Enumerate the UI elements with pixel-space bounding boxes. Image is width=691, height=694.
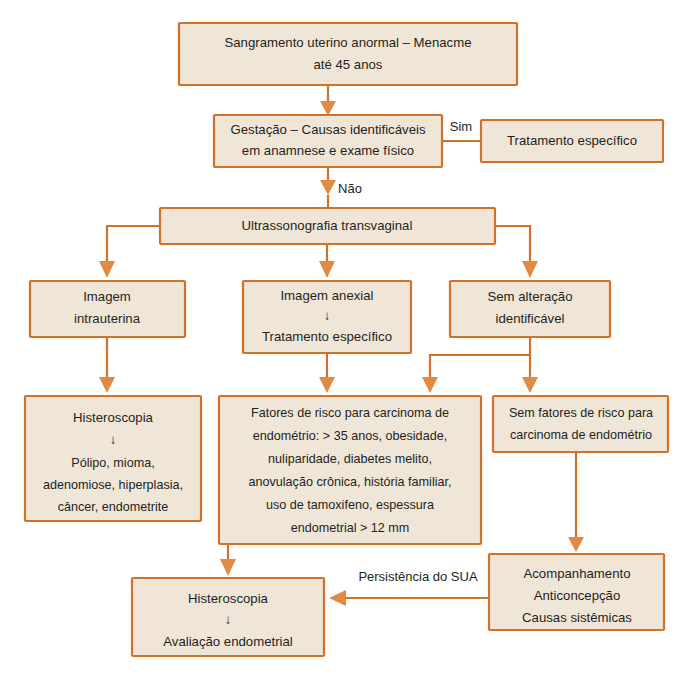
node-tratamento-especifico[interactable]: Tratamento específico	[481, 120, 663, 162]
node-text-line: Tratamento específico	[262, 329, 392, 344]
node-text-line: Fatores de risco para carcinoma de	[251, 406, 449, 420]
edge-arrow-n7-n10	[522, 377, 538, 393]
node-histeroscopia-avaliacao[interactable]: Histeroscopia ↓ Avaliação endometrial	[132, 578, 324, 656]
node-text-arrow-glyph: ↓	[110, 432, 117, 447]
nodes-group: Sangramento uterino anormal – Menacme at…	[25, 23, 668, 656]
node-text-line: Causas sistêmicas	[522, 610, 632, 625]
node-text-line: Sem fatores de risco para	[509, 406, 653, 420]
edge-arrow-n4-n5	[99, 261, 115, 278]
edge-arrow-n4-n6	[319, 261, 335, 278]
node-text-line: Sangramento uterino anormal – Menacme	[224, 35, 471, 50]
node-text-arrow-glyph: ↓	[225, 612, 232, 627]
flowchart-svg: Sangramento uterino anormal – Menacme at…	[0, 0, 691, 694]
node-text-line: em anamnese e exame físico	[242, 143, 414, 158]
node-text-line: até 45 anos	[314, 57, 383, 72]
node-text-arrow-glyph: ↓	[324, 308, 331, 323]
edge-arrow-n1-n2	[320, 101, 336, 116]
node-text-line: Avaliação endometrial	[163, 634, 293, 649]
node-sangramento-uterino[interactable]: Sangramento uterino anormal – Menacme at…	[179, 23, 517, 85]
node-text-line: carcinoma de endométrio	[510, 428, 652, 442]
edge-arrow-n10-n11	[568, 537, 584, 552]
node-text-line: Histeroscopia	[73, 410, 154, 425]
edge-label-sim: Sim	[450, 119, 472, 134]
node-imagem-anexial[interactable]: Imagem anexial ↓ Tratamento específico	[243, 281, 411, 353]
node-text-line: intrauterina	[74, 311, 141, 326]
node-text-line: Sem alteração	[487, 289, 572, 304]
edge-arrow-n2-nao	[320, 180, 336, 195]
edge-arrow-n7-n9	[422, 377, 438, 393]
node-imagem-intrauterina[interactable]: Imagem intrauterina	[30, 281, 185, 337]
node-text-line: Histeroscopia	[188, 591, 269, 606]
node-ultrassonografia-transvaginal[interactable]: Ultrassonografia transvaginal	[160, 208, 495, 244]
node-text-line: identificável	[496, 311, 565, 326]
edge-label-persistencia: Persistência do SUA	[358, 569, 478, 584]
node-sem-alteracao[interactable]: Sem alteração identificável	[450, 281, 610, 337]
edge-n4-left-branch	[107, 226, 160, 262]
node-gestacao-causas[interactable]: Gestação – Causas identificáveis em anam…	[214, 115, 442, 167]
node-fatores-de-risco[interactable]: Fatores de risco para carcinoma de endom…	[219, 396, 481, 544]
node-text-line: Imagem	[83, 289, 131, 304]
edge-arrow-n5-n8	[99, 377, 115, 393]
node-text-line: anovulação crônica, história familiar,	[248, 475, 451, 489]
edge-arrow-n6-n9	[319, 377, 335, 393]
node-text-line: nuliparidade, diabetes melito,	[268, 452, 432, 466]
node-text-line: Imagem anexial	[280, 288, 373, 303]
node-text-line: endométrio: > 35 anos, obesidade,	[253, 429, 447, 443]
edge-arrow-n9-n12	[220, 559, 236, 576]
node-text-line: Pólipo, mioma,	[71, 456, 154, 470]
node-text-line: adenomiose, hiperplasia,	[43, 478, 183, 492]
node-text-line: Gestação – Causas identificáveis	[231, 122, 426, 137]
node-histeroscopia-polipo[interactable]: Histeroscopia ↓ Pólipo, mioma, adenomios…	[25, 396, 201, 521]
node-text-line: Acompanhamento	[523, 566, 630, 581]
edge-label-nao: Não	[338, 181, 362, 196]
node-text-line: Ultrassonografia transvaginal	[242, 218, 413, 233]
flowchart-root: Sangramento uterino anormal – Menacme at…	[0, 0, 691, 694]
node-acompanhamento[interactable]: Acompanhamento Anticoncepção Causas sist…	[489, 554, 664, 630]
node-text-line: Tratamento específico	[507, 133, 637, 148]
node-text-line: uso de tamoxifeno, espessura	[266, 498, 434, 512]
node-sem-fatores-de-risco[interactable]: Sem fatores de risco para carcinoma de e…	[493, 396, 668, 452]
node-text-line: câncer, endometrite	[58, 500, 169, 514]
edge-arrow-n11-n12	[329, 590, 346, 606]
edge-n4-right-branch	[495, 226, 530, 262]
node-text-line: Anticoncepção	[534, 588, 621, 603]
edge-arrow-n4-n7	[522, 261, 538, 278]
edge-n7-left-branch	[430, 355, 530, 378]
node-text-line: endometrial > 12 mm	[291, 521, 410, 535]
